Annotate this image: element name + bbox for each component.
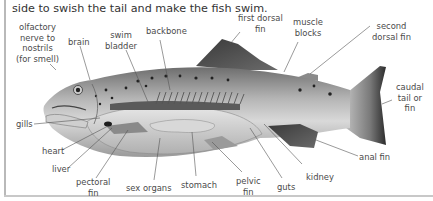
label-anal-fin: anal fin — [359, 152, 390, 163]
label-first-dorsal-fin: first dorsal fin — [238, 13, 283, 34]
label-backbone: backbone — [146, 26, 187, 37]
label-caudal-fin: caudal tail or fin — [396, 82, 424, 114]
label-liver: liver — [52, 164, 70, 175]
label-second-dorsal-fin: second dorsal fin — [372, 21, 411, 42]
label-olfactory-nerve: olfactory nerve to nostrils (for smell) — [16, 22, 59, 64]
label-guts: guts — [277, 182, 295, 193]
label-pelvic-fin: pelvic fin — [236, 176, 261, 197]
first-dorsal-fin-shape — [196, 39, 278, 70]
diagram-frame: side to swish the tail and make the fish… — [0, 0, 433, 201]
label-kidney: kidney — [306, 172, 334, 183]
label-swim-bladder: swim bladder — [105, 30, 137, 51]
label-gills: gills — [16, 119, 33, 130]
label-sex-organs: sex organs — [126, 183, 172, 194]
label-stomach: stomach — [181, 180, 217, 191]
heart-shape — [104, 122, 112, 127]
caudal-fin-shape — [346, 66, 386, 145]
label-brain: brain — [68, 37, 90, 48]
stomach-shape — [150, 120, 215, 133]
label-pectoral-fin: pectoral fin — [76, 177, 110, 198]
label-muscle-blocks: muscle blocks — [293, 17, 323, 38]
label-heart: heart — [42, 146, 64, 157]
